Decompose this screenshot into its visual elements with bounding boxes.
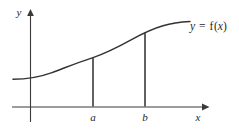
x-tick-label-a: a [90, 111, 96, 123]
x-axis-label: x [195, 111, 201, 123]
graph-canvas: y x a b y=f(x) [0, 0, 239, 133]
curve-label: y=f(x) [189, 20, 227, 33]
curve-label-close-paren: ) [223, 20, 227, 33]
curve-label-equals: = [199, 20, 206, 32]
y-axis-arrowhead-icon [27, 9, 34, 16]
curve-label-y: y [189, 20, 196, 33]
function-curve [13, 22, 190, 80]
y-axis-label: y [16, 6, 22, 18]
x-axis-arrowhead-icon [202, 104, 210, 111]
function-graph-figure: y x a b y=f(x) [0, 0, 239, 133]
x-tick-label-b: b [142, 111, 148, 123]
curve-label-lhs: y=f(x) [189, 20, 227, 33]
